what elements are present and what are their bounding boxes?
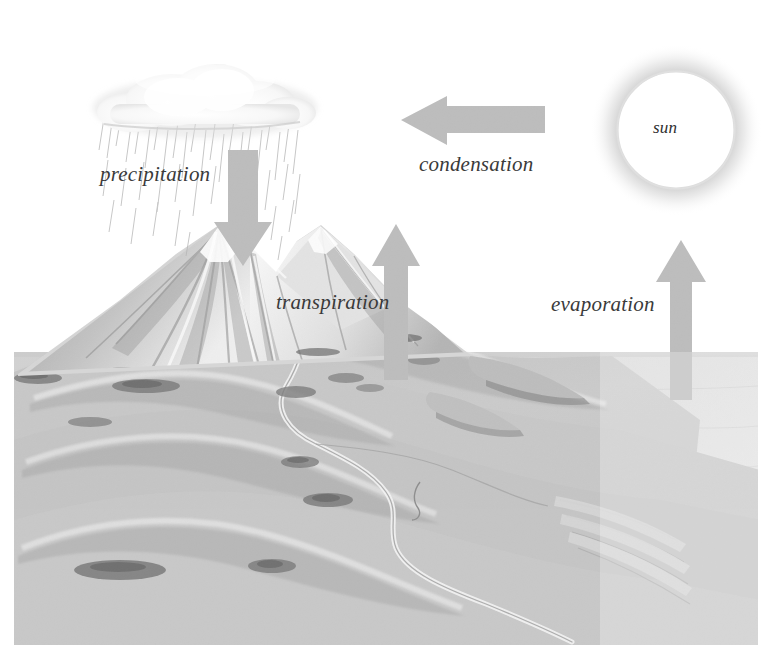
illustration-canvas — [0, 0, 772, 662]
cloud — [93, 64, 317, 138]
condensation-arrow — [401, 96, 545, 145]
water-cycle-diagram: precipitation condensation transpiration… — [0, 0, 772, 662]
label-transpiration: transpiration — [276, 290, 389, 315]
label-sun: sun — [653, 118, 677, 138]
label-condensation: condensation — [419, 152, 533, 177]
label-evaporation: evaporation — [551, 292, 655, 317]
label-precipitation: precipitation — [100, 162, 210, 187]
